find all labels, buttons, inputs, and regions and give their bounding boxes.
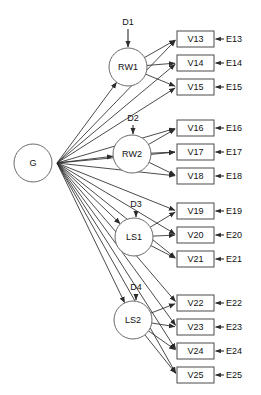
latent-label-RW2: RW2 <box>122 149 142 159</box>
disturbance-label-D3: D3 <box>130 199 142 209</box>
LS2-loading-V23 <box>152 323 175 327</box>
indicator-label-V19: V19 <box>187 206 203 216</box>
error-label-E19: E19 <box>226 206 242 216</box>
indicator-label-V21: V21 <box>187 254 203 264</box>
RW1-loading-V14 <box>147 63 175 65</box>
g-to-RW1 <box>57 82 117 163</box>
indicator-label-V24: V24 <box>187 346 203 356</box>
RW2-loading-V16 <box>148 129 175 144</box>
LS2-loading-V25 <box>145 335 176 374</box>
LS1-loading-V20 <box>153 235 175 236</box>
error-label-E23: E23 <box>226 322 242 332</box>
indicator-label-V16: V16 <box>187 123 203 133</box>
indicator-label-V23: V23 <box>187 322 203 332</box>
indicator-label-V20: V20 <box>187 230 203 240</box>
indicator-label-V25: V25 <box>187 370 203 380</box>
error-label-E24: E24 <box>226 346 242 356</box>
LS2-loading-V24 <box>149 331 176 350</box>
g-loading-V25 <box>57 163 176 373</box>
indicator-label-V18: V18 <box>187 171 203 181</box>
latent-label-G: G <box>29 158 36 168</box>
latent-label-LS2: LS2 <box>125 315 141 325</box>
RW2-loading-V17 <box>151 152 175 153</box>
indicator-label-V15: V15 <box>187 82 203 92</box>
error-label-E17: E17 <box>226 147 242 157</box>
error-label-E18: E18 <box>226 171 242 181</box>
sem-path-diagram: D1D2D3D4V13E13V14E14V15E15V16E16V17E17V1… <box>0 0 261 395</box>
indicator-label-V13: V13 <box>187 34 203 44</box>
error-label-E25: E25 <box>226 370 242 380</box>
error-label-E14: E14 <box>226 58 242 68</box>
error-label-E15: E15 <box>226 82 242 92</box>
g-to-LS2 <box>57 163 125 303</box>
indicator-label-V17: V17 <box>187 147 203 157</box>
error-label-E16: E16 <box>226 123 242 133</box>
error-label-E22: E22 <box>226 298 242 308</box>
RW1-loading-V15 <box>146 74 176 86</box>
error-label-E21: E21 <box>226 254 242 264</box>
indicator-label-V22: V22 <box>187 298 203 308</box>
LS2-loading-V22 <box>151 304 175 313</box>
RW1-loading-V13 <box>144 40 175 58</box>
disturbance-label-D2: D2 <box>127 113 139 123</box>
indicator-label-V14: V14 <box>187 58 203 68</box>
LS1-loading-V19 <box>150 212 175 227</box>
disturbance-label-D1: D1 <box>122 17 134 27</box>
error-label-E20: E20 <box>226 230 242 240</box>
error-label-E13: E13 <box>226 34 242 44</box>
latent-label-LS1: LS1 <box>126 232 142 242</box>
g-to-LS1 <box>57 163 120 224</box>
latent-label-RW1: RW1 <box>118 62 138 72</box>
disturbance-label-D4: D4 <box>130 282 142 292</box>
error-arrows <box>216 39 225 375</box>
